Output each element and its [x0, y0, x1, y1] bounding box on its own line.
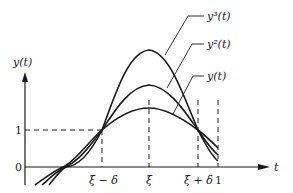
y-tick-one: 1	[15, 124, 22, 137]
y-axis-arrow-icon	[22, 72, 28, 82]
x-tick-xi-plus-delta: ξ + δ	[184, 174, 213, 187]
curve-y2	[42, 85, 218, 185]
function-powers-diagram: y³(t) y²(t) y(t) y(t) t 1 0 ξ − δ ξ ξ + …	[0, 0, 293, 193]
y-axis-label: y(t)	[12, 56, 32, 69]
curve-label-y2: y²(t)	[206, 38, 231, 51]
x-axis-label: t	[274, 161, 279, 174]
x-tick-xi: ξ	[146, 174, 153, 187]
curve-label-y: y(t)	[206, 70, 226, 83]
x-tick-one: 1	[215, 174, 222, 187]
curve-label-y3: y³(t)	[206, 10, 231, 23]
y-tick-zero: 0	[15, 161, 22, 174]
x-axis-arrow-icon	[258, 164, 270, 170]
x-tick-xi-minus-delta: ξ − δ	[89, 174, 118, 187]
curves	[35, 50, 218, 185]
leader-y3	[165, 16, 204, 55]
leader-y2	[167, 44, 204, 88]
curve-y3	[49, 50, 218, 185]
